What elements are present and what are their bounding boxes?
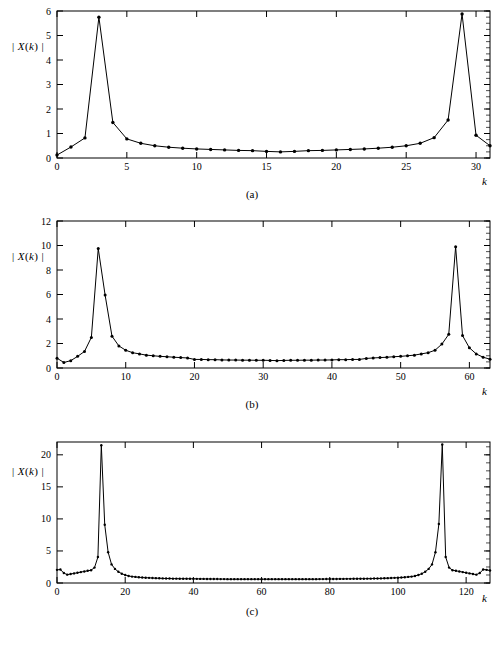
y-tick-label: 12 bbox=[41, 216, 51, 227]
data-point bbox=[293, 150, 296, 153]
data-point bbox=[434, 551, 436, 553]
data-point bbox=[56, 569, 58, 571]
plot-frame bbox=[57, 442, 490, 583]
data-point bbox=[90, 336, 93, 339]
data-point bbox=[223, 148, 226, 151]
data-point bbox=[192, 578, 194, 580]
data-point bbox=[420, 352, 423, 355]
data-point bbox=[111, 121, 114, 124]
data-point bbox=[193, 358, 196, 361]
y-tick-label: 2 bbox=[46, 104, 51, 115]
data-point bbox=[114, 568, 116, 570]
data-point bbox=[196, 578, 198, 580]
data-point bbox=[310, 359, 313, 362]
chart-svg-c: 05101520020406080100120 bbox=[0, 420, 504, 610]
data-point bbox=[410, 575, 412, 577]
data-point bbox=[247, 578, 249, 580]
data-point bbox=[277, 578, 279, 580]
data-point bbox=[289, 359, 292, 362]
data-point bbox=[264, 578, 266, 580]
data-point bbox=[431, 563, 433, 565]
data-point bbox=[125, 137, 128, 140]
data-point bbox=[324, 359, 327, 362]
y-tick-label: 10 bbox=[41, 240, 51, 251]
x-tick-label: 120 bbox=[459, 586, 474, 597]
data-point bbox=[282, 359, 285, 362]
data-point bbox=[104, 523, 106, 525]
data-point bbox=[281, 578, 283, 580]
data-point bbox=[392, 355, 395, 358]
data-point bbox=[144, 577, 146, 579]
data-point bbox=[346, 578, 348, 580]
y-tick-label: 15 bbox=[41, 481, 51, 492]
y-tick-label: 10 bbox=[41, 513, 51, 524]
plot-frame bbox=[57, 11, 490, 158]
caption-b: (b) bbox=[0, 398, 504, 410]
x-tick-label: 80 bbox=[325, 586, 335, 597]
data-point bbox=[424, 571, 426, 573]
data-point bbox=[298, 578, 300, 580]
data-point bbox=[107, 551, 109, 553]
y-tick-label: 6 bbox=[46, 6, 51, 17]
data-point bbox=[344, 358, 347, 361]
data-point bbox=[294, 578, 296, 580]
x-tick-label: 60 bbox=[464, 371, 474, 382]
data-point bbox=[223, 578, 225, 580]
data-point bbox=[366, 577, 368, 579]
data-point bbox=[406, 354, 409, 357]
data-point bbox=[161, 577, 163, 579]
data-point bbox=[139, 142, 142, 145]
data-point bbox=[489, 569, 491, 571]
data-point bbox=[251, 149, 254, 152]
data-point bbox=[117, 571, 119, 573]
data-point bbox=[97, 556, 99, 558]
data-point bbox=[468, 346, 471, 349]
data-point bbox=[444, 556, 446, 558]
data-point bbox=[332, 578, 334, 580]
data-point bbox=[376, 577, 378, 579]
data-point bbox=[468, 572, 470, 574]
data-point bbox=[339, 578, 341, 580]
data-point bbox=[385, 356, 388, 359]
data-point bbox=[377, 147, 380, 150]
data-point bbox=[312, 578, 314, 580]
data-point bbox=[127, 575, 129, 577]
data-point bbox=[155, 577, 157, 579]
data-point bbox=[179, 578, 181, 580]
data-point bbox=[380, 577, 382, 579]
x-tick-label: 25 bbox=[401, 161, 411, 172]
data-point bbox=[151, 577, 153, 579]
data-point bbox=[391, 146, 394, 149]
y-tick-label: 0 bbox=[46, 578, 51, 589]
plot-area-a: 0123456051015202530 bbox=[0, 0, 504, 210]
x-tick-label: 20 bbox=[189, 371, 199, 382]
plot-frame bbox=[57, 221, 490, 368]
data-point bbox=[349, 578, 351, 580]
x-tick-label: 10 bbox=[121, 371, 131, 382]
data-point bbox=[432, 136, 435, 139]
data-point bbox=[158, 577, 160, 579]
data-point bbox=[349, 148, 352, 151]
data-point bbox=[274, 578, 276, 580]
data-point bbox=[148, 577, 150, 579]
y-tick-label: 20 bbox=[41, 449, 51, 460]
x-tick-label: 0 bbox=[55, 371, 60, 382]
data-point bbox=[482, 356, 485, 359]
data-point bbox=[427, 351, 430, 354]
data-point bbox=[186, 356, 189, 359]
data-point bbox=[303, 359, 306, 362]
x-tick-label: 20 bbox=[120, 586, 130, 597]
data-point bbox=[168, 577, 170, 579]
data-point bbox=[83, 570, 85, 572]
x-tick-label: 60 bbox=[257, 586, 267, 597]
data-point bbox=[265, 150, 268, 153]
data-point bbox=[441, 443, 443, 445]
data-point bbox=[269, 359, 272, 362]
data-point bbox=[455, 570, 457, 572]
x-tick-label: 10 bbox=[192, 161, 202, 172]
data-point bbox=[454, 245, 457, 248]
data-point bbox=[76, 355, 79, 358]
data-point bbox=[260, 578, 262, 580]
data-point bbox=[329, 578, 331, 580]
data-point bbox=[76, 572, 78, 574]
